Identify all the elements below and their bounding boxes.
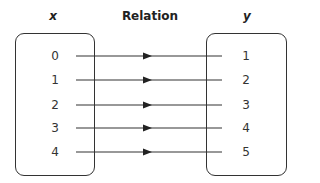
domain-value: 2 — [45, 98, 65, 112]
domain-value: 0 — [45, 49, 65, 63]
domain-value: 4 — [45, 145, 65, 159]
domain-value: 3 — [45, 121, 65, 135]
range-value: 2 — [236, 73, 256, 87]
range-value: 3 — [236, 98, 256, 112]
range-value: 4 — [236, 121, 256, 135]
range-value: 5 — [236, 145, 256, 159]
domain-value: 1 — [45, 73, 65, 87]
range-value: 1 — [236, 49, 256, 63]
